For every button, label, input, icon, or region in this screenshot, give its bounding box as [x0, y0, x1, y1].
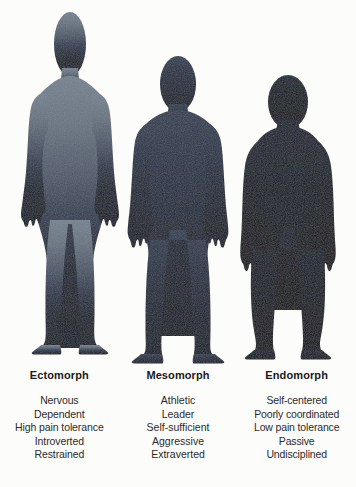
list-item: Self-sufficient	[119, 421, 238, 435]
ectomorph-traits-list: Nervous Dependent High pain tolerance In…	[0, 394, 119, 462]
list-item: Low pain tolerance	[237, 421, 356, 435]
labels-and-traits: Ectomorph Nervous Dependent High pain to…	[0, 368, 356, 462]
mesomorph-label: Mesomorph	[119, 368, 238, 382]
list-item: Undisciplined	[237, 448, 356, 462]
ectomorph-label: Ectomorph	[0, 368, 119, 382]
list-item: Aggressive	[119, 435, 238, 449]
list-item: Nervous	[0, 394, 119, 408]
list-item: Athletic	[119, 394, 238, 408]
list-item: Leader	[119, 408, 238, 422]
column-endomorph: Endomorph Self-centered Poorly coordinat…	[237, 368, 356, 462]
list-item: Dependent	[0, 408, 119, 422]
list-item: Introverted	[0, 435, 119, 449]
list-item: Self-centered	[237, 394, 356, 408]
column-ectomorph: Ectomorph Nervous Dependent High pain to…	[0, 368, 119, 462]
list-item: Extraverted	[119, 448, 238, 462]
column-mesomorph: Mesomorph Athletic Leader Self-sufficien…	[119, 368, 238, 462]
silhouette-figures-group	[0, 0, 356, 368]
somatotype-chart: Ectomorph Nervous Dependent High pain to…	[0, 0, 356, 487]
endomorph-traits-list: Self-centered Poorly coordinated Low pai…	[237, 394, 356, 462]
mesomorph-traits-list: Athletic Leader Self-sufficient Aggressi…	[119, 394, 238, 462]
silhouettes-svg	[0, 0, 356, 368]
list-item: High pain tolerance	[0, 421, 119, 435]
list-item: Passive	[237, 435, 356, 449]
list-item: Poorly coordinated	[237, 408, 356, 422]
endomorph-label: Endomorph	[237, 368, 356, 382]
list-item: Restrained	[0, 448, 119, 462]
